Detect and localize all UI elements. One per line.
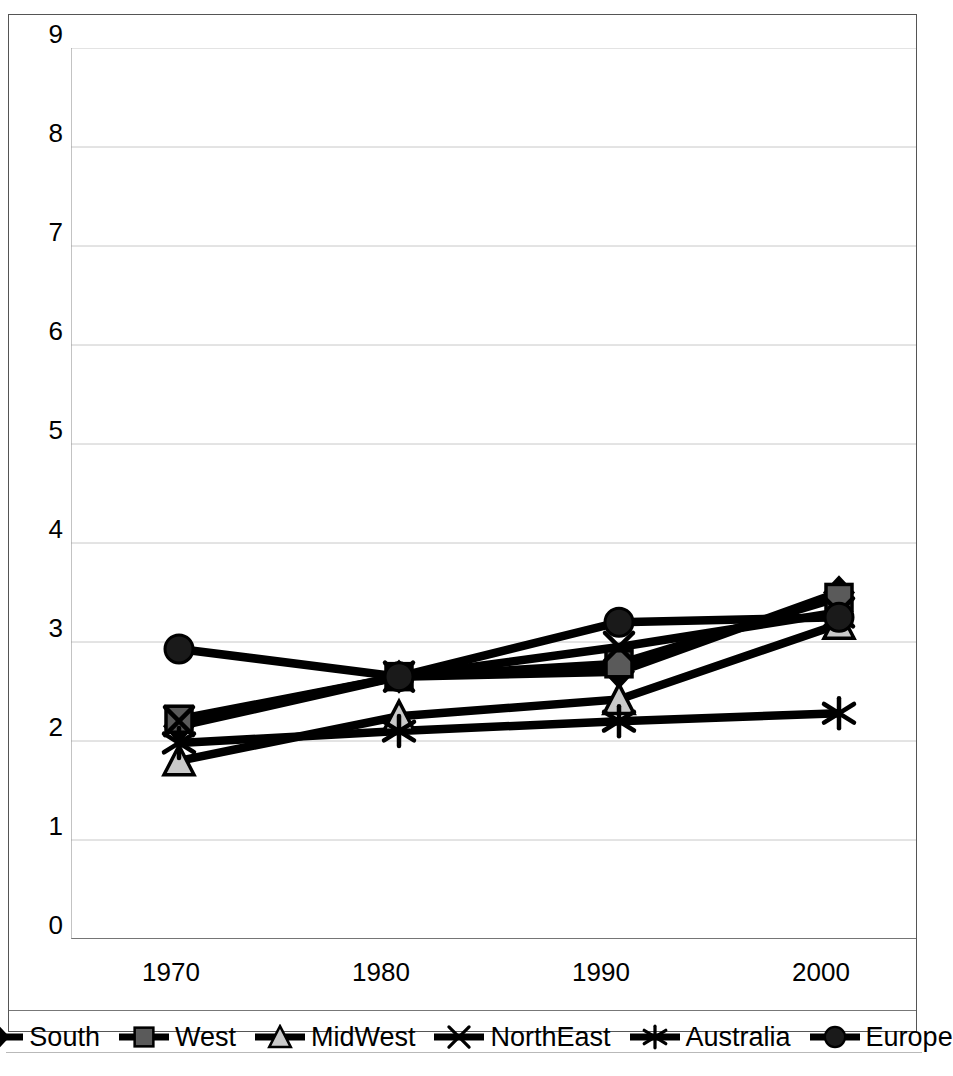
circle-marker bbox=[385, 663, 413, 691]
y-tick-label: 3 bbox=[29, 615, 63, 641]
asterisk-marker-icon bbox=[629, 1024, 681, 1050]
legend-item[interactable]: West bbox=[118, 1024, 236, 1051]
legend-label: West bbox=[175, 1024, 236, 1051]
square-marker bbox=[135, 1028, 154, 1047]
legend-label: Europe bbox=[866, 1024, 953, 1051]
legend-item[interactable]: Europe bbox=[809, 1024, 953, 1051]
triangle-marker-icon bbox=[254, 1024, 306, 1050]
square-marker-icon bbox=[118, 1024, 170, 1050]
y-tick-label: 7 bbox=[29, 219, 63, 245]
diamond-marker-icon bbox=[0, 1024, 24, 1050]
y-tick-label: 1 bbox=[29, 813, 63, 839]
y-tick-label: 8 bbox=[29, 120, 63, 146]
circle-marker-icon bbox=[809, 1024, 861, 1050]
legend-item[interactable]: NorthEast bbox=[433, 1024, 610, 1051]
y-tick-label: 4 bbox=[29, 516, 63, 542]
cross-marker-icon bbox=[433, 1024, 485, 1050]
circle-marker bbox=[165, 635, 193, 663]
plot-canvas bbox=[71, 48, 916, 939]
diamond-marker bbox=[0, 1026, 8, 1048]
legend-label: South bbox=[29, 1024, 100, 1051]
chart-legend: SouthWestMidWestNorthEastAustraliaEurope bbox=[9, 1011, 916, 1063]
y-tick-label: 2 bbox=[29, 714, 63, 740]
legend-item[interactable]: MidWest bbox=[254, 1024, 416, 1051]
y-axis-tick-labels: 9 8 7 6 5 4 3 2 1 0 bbox=[17, 15, 63, 1033]
series-line bbox=[179, 713, 839, 743]
circle-marker bbox=[825, 603, 853, 631]
circle-marker bbox=[605, 608, 633, 636]
y-tick-label: 5 bbox=[29, 417, 63, 443]
x-tick-label: 1970 bbox=[142, 959, 200, 985]
legend-item[interactable]: South bbox=[0, 1024, 100, 1051]
x-tick-label: 2000 bbox=[792, 959, 850, 985]
x-axis-tick-labels: 1970 1980 1990 2000 bbox=[9, 959, 918, 999]
page-rule bbox=[6, 1052, 922, 1053]
circle-marker bbox=[824, 1027, 844, 1047]
y-tick-label: 0 bbox=[29, 912, 63, 938]
x-tick-label: 1990 bbox=[572, 959, 630, 985]
chart-frame: 9 8 7 6 5 4 3 2 1 0 1970 1980 1990 2000 … bbox=[8, 14, 917, 1032]
x-tick-label: 1980 bbox=[352, 959, 410, 985]
y-tick-label: 6 bbox=[29, 318, 63, 344]
plot-area bbox=[71, 48, 916, 939]
legend-label: NorthEast bbox=[490, 1024, 610, 1051]
legend-label: Australia bbox=[686, 1024, 791, 1051]
y-tick-label: 9 bbox=[29, 21, 63, 47]
legend-label: MidWest bbox=[311, 1024, 416, 1051]
legend-item[interactable]: Australia bbox=[629, 1024, 791, 1051]
